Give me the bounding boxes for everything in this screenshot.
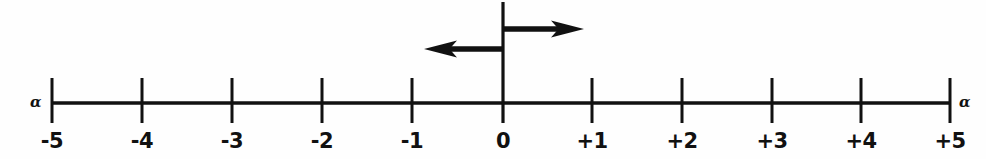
tick-label-+5: +5 <box>934 131 965 152</box>
tick-label-+4: +4 <box>845 131 876 152</box>
left-arrow <box>424 41 503 58</box>
tick-label-+3: +3 <box>756 131 787 152</box>
number-line-figure: α α -5 -4 -3 -2 -1 0 +1 +2 +3 +4 +5 <box>0 0 986 159</box>
tick-label--4: -4 <box>131 131 153 152</box>
tick-label--1: -1 <box>401 131 423 152</box>
tick-label--5: -5 <box>41 131 63 152</box>
tick-label--3: -3 <box>221 131 243 152</box>
alpha-label-left: α <box>30 95 42 110</box>
tick-label-+2: +2 <box>666 131 697 152</box>
right-arrow <box>503 21 584 38</box>
tick-label-+1: +1 <box>576 131 607 152</box>
tick-label-0: 0 <box>496 131 510 152</box>
tick-marks <box>52 78 950 123</box>
alpha-label-right: α <box>959 95 971 110</box>
tick-label--2: -2 <box>311 131 333 152</box>
